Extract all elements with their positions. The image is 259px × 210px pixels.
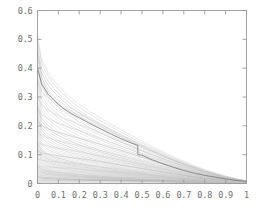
y-tick-label: 0.2: [0, 121, 33, 131]
x-tick-label: 0.6: [156, 190, 171, 200]
y-tick-label: 0.4: [0, 63, 33, 73]
x-tick-label: 0.7: [176, 190, 191, 200]
x-tick-label: 0.9: [218, 190, 233, 200]
curve-line: [38, 76, 247, 182]
chart-figure: 00.10.20.30.40.50.6 00.10.20.30.40.50.60…: [0, 0, 259, 210]
axis-ticks-group: [38, 11, 247, 184]
plot-area: [0, 0, 259, 210]
y-tick-label: 0.3: [0, 92, 33, 102]
y-tick-label: 0.1: [0, 150, 33, 160]
x-tick-label: 0.2: [72, 190, 87, 200]
y-tick-label: 0.6: [0, 6, 33, 16]
x-tick-label: 0.8: [197, 190, 212, 200]
curves-group: [38, 36, 247, 183]
x-tick-label: 0.3: [93, 190, 108, 200]
plot-frame: [38, 11, 247, 184]
x-tick-label: 0.1: [51, 190, 66, 200]
y-tick-label: 0.5: [0, 34, 33, 44]
x-tick-label: 0: [35, 190, 40, 200]
axes-frame-group: [38, 11, 247, 184]
y-tick-label: 0: [0, 179, 33, 189]
x-tick-label: 0.4: [114, 190, 129, 200]
curve-line: [38, 106, 247, 182]
x-tick-label: 0.5: [135, 190, 150, 200]
x-tick-label: 1: [244, 190, 249, 200]
